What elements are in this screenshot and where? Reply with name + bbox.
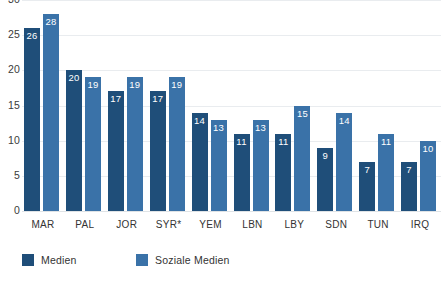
legend-item[interactable]: Soziale Medien: [136, 250, 230, 270]
y-tick-label: 10: [0, 135, 20, 146]
x-tick-label: TUN: [357, 219, 399, 231]
bar-value-label: 13: [253, 123, 269, 133]
legend-swatch-icon: [22, 254, 34, 266]
bar[interactable]: 19: [127, 77, 143, 211]
bar[interactable]: 10: [420, 141, 436, 211]
bar-value-label: 13: [211, 123, 227, 133]
bar[interactable]: 7: [401, 162, 417, 211]
x-tick-label: PAL: [64, 219, 106, 231]
bar-value-label: 19: [127, 80, 143, 90]
bar-group: 2628: [22, 0, 64, 211]
bar-value-label: 20: [66, 73, 82, 83]
bar[interactable]: 19: [169, 77, 185, 211]
y-tick-label: 5: [0, 170, 20, 181]
bar[interactable]: 13: [253, 120, 269, 211]
x-tick-label: YEM: [190, 219, 232, 231]
legend-item[interactable]: Medien: [22, 250, 77, 270]
bar[interactable]: 28: [43, 14, 59, 211]
bar-group: 710: [399, 0, 441, 211]
bar-value-label: 28: [43, 17, 59, 27]
bar-value-label: 17: [150, 94, 166, 104]
bar-value-label: 19: [169, 80, 185, 90]
bar-group: 914: [315, 0, 357, 211]
legend-label: Soziale Medien: [155, 254, 230, 266]
bar-value-label: 14: [336, 116, 352, 126]
x-tick-label: SDN: [315, 219, 357, 231]
bar[interactable]: 13: [211, 120, 227, 211]
bar[interactable]: 9: [317, 148, 333, 211]
bar[interactable]: 11: [275, 134, 291, 211]
x-tick-label: MAR: [22, 219, 64, 231]
bar[interactable]: 15: [294, 106, 310, 212]
bar-value-label: 11: [378, 137, 394, 147]
legend-swatch-icon: [136, 254, 148, 266]
bar[interactable]: 14: [192, 113, 208, 211]
bar-value-label: 11: [234, 137, 250, 147]
bar-group: 2019: [64, 0, 106, 211]
bar-group: 1719: [148, 0, 190, 211]
bar-group: 1115: [273, 0, 315, 211]
y-tick-label: 25: [0, 29, 20, 40]
x-tick-label: IRQ: [399, 219, 441, 231]
gridline: [22, 211, 441, 212]
x-tick-label: SYR*: [148, 219, 190, 231]
bar-value-label: 7: [359, 165, 375, 175]
chart-legend: MedienSoziale Medien: [0, 250, 441, 276]
y-tick-label: 20: [0, 64, 20, 75]
bar[interactable]: 14: [336, 113, 352, 211]
y-tick-label: 0: [0, 205, 20, 216]
bar[interactable]: 17: [150, 91, 166, 211]
bar-group: 711: [357, 0, 399, 211]
bar-value-label: 26: [24, 31, 40, 41]
bar-value-label: 15: [294, 109, 310, 119]
bar[interactable]: 11: [378, 134, 394, 211]
x-axis: MARPALJORSYR*YEMLBNLBYSDNTUNIRQ: [22, 215, 441, 237]
bar[interactable]: 7: [359, 162, 375, 211]
x-tick-label: LBN: [232, 219, 274, 231]
y-axis: 051015202530: [0, 0, 20, 215]
grouped-bar-chart: 051015202530 262820191719171914131113111…: [0, 0, 441, 291]
bar-value-label: 14: [192, 116, 208, 126]
x-tick-label: JOR: [106, 219, 148, 231]
plot-area: 051015202530 262820191719171914131113111…: [0, 0, 441, 215]
bar-value-label: 7: [401, 165, 417, 175]
bar[interactable]: 20: [66, 70, 82, 211]
bar-value-label: 9: [317, 151, 333, 161]
bar[interactable]: 26: [24, 28, 40, 211]
x-tick-label: LBY: [273, 219, 315, 231]
bar-group: 1719: [106, 0, 148, 211]
bars-layer: 2628201917191719141311131115914711710: [22, 0, 441, 211]
legend-label: Medien: [41, 254, 77, 266]
bar-value-label: 17: [108, 94, 124, 104]
y-tick-label: 15: [0, 100, 20, 111]
bar[interactable]: 17: [108, 91, 124, 211]
bar-value-label: 11: [275, 137, 291, 147]
bar-group: 1113: [232, 0, 274, 211]
bar[interactable]: 19: [85, 77, 101, 211]
bar-value-label: 19: [85, 80, 101, 90]
bar-value-label: 10: [420, 144, 436, 154]
y-tick-label: 30: [0, 0, 20, 5]
bar-group: 1413: [190, 0, 232, 211]
bar[interactable]: 11: [234, 134, 250, 211]
